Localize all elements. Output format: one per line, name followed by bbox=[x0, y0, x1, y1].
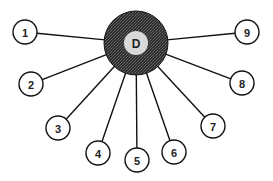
node-9: 9 bbox=[235, 20, 259, 44]
node-3: 3 bbox=[46, 116, 70, 140]
node-label: 2 bbox=[28, 79, 34, 91]
edge-d-5 bbox=[136, 74, 137, 148]
node-label: 9 bbox=[244, 27, 250, 39]
node-label: 1 bbox=[22, 27, 28, 39]
node-6: 6 bbox=[162, 140, 186, 164]
edge-d-4 bbox=[102, 72, 126, 141]
node-8: 8 bbox=[230, 71, 254, 95]
edge-d-1 bbox=[37, 33, 105, 40]
node-label: 3 bbox=[55, 123, 61, 135]
edge-d-6 bbox=[146, 72, 170, 140]
hub-label: D bbox=[132, 37, 141, 51]
node-label: 6 bbox=[171, 147, 177, 159]
node-label: 8 bbox=[239, 78, 245, 90]
star-diagram: D 123456789 bbox=[0, 0, 273, 181]
node-2: 2 bbox=[19, 72, 43, 96]
edge-d-9 bbox=[167, 33, 235, 40]
edge-d-3 bbox=[66, 66, 115, 119]
edge-d-7 bbox=[157, 66, 205, 118]
hub-node: D bbox=[104, 11, 168, 75]
edge-d-8 bbox=[165, 54, 231, 79]
edge-d-2 bbox=[42, 54, 107, 79]
node-1: 1 bbox=[13, 20, 37, 44]
node-5: 5 bbox=[125, 148, 149, 172]
node-label: 5 bbox=[134, 155, 140, 167]
node-4: 4 bbox=[86, 141, 110, 165]
node-7: 7 bbox=[201, 114, 225, 138]
node-label: 4 bbox=[95, 148, 102, 160]
node-label: 7 bbox=[210, 121, 216, 133]
